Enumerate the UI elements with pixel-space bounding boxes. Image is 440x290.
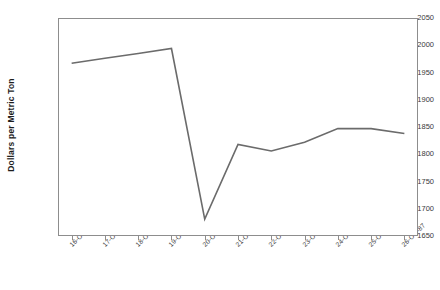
y-axis-title-text: Dollars per Metric Ton [6, 78, 16, 172]
plot-area [58, 18, 418, 236]
line-chart: Dollars per Metric Ton 16501700175018001… [0, 0, 440, 290]
y-axis-title: Dollars per Metric Ton [0, 0, 22, 250]
